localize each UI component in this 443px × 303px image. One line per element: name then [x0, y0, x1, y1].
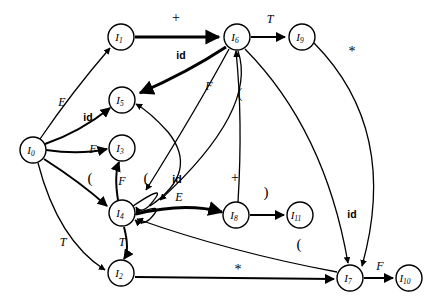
node-I2[interactable]: I2 — [108, 260, 134, 286]
edge-I0-I4 — [44, 159, 107, 206]
node-I8-sub: 8 — [234, 214, 238, 223]
edge-label-I4-I8: E — [174, 190, 183, 204]
node-I3-sub: 3 — [119, 147, 124, 156]
edge-label-I4-I3: F — [117, 174, 126, 188]
edge-label-I6-I4b: ( — [238, 85, 243, 102]
edge-I6-I7 — [245, 49, 348, 263]
edge-I9-I7 — [314, 43, 374, 266]
node-I9[interactable]: I9 — [289, 24, 315, 50]
edge-I4-self-paren — [133, 193, 158, 210]
node-I5-sub: 5 — [120, 99, 124, 108]
edge-I0-I1 — [40, 48, 110, 139]
node-I2-sub: 2 — [119, 272, 123, 281]
edge-label-I7-I10: F — [375, 259, 384, 273]
edge-I0-I3 — [46, 149, 107, 152]
edge-label-I6-I5: id — [176, 49, 185, 61]
edges-layer — [38, 37, 393, 279]
edge-label-I4-I4: ( — [144, 170, 149, 187]
node-I11[interactable]: I11 — [287, 202, 313, 228]
edge-label-I8-I6: + — [231, 170, 239, 185]
edge-label-I6-I7: id — [347, 208, 356, 220]
edge-label-I0-I3: F — [88, 142, 97, 156]
node-I4-sub: 4 — [120, 212, 124, 221]
edge-label-I4-I5: id — [172, 173, 181, 185]
node-I0-sub: 0 — [31, 149, 35, 158]
node-I4[interactable]: I4 — [109, 200, 135, 226]
edge-I2-I7 — [135, 277, 334, 279]
node-I10[interactable]: I10 — [396, 265, 422, 291]
edge-label-I0-I2: T — [60, 235, 68, 249]
edge-label-I0-I5: id — [83, 111, 92, 123]
diagram-canvas: + T id F ( E id F ( T F ( id E T + ) * i… — [0, 0, 443, 303]
node-I11-sub: 11 — [294, 214, 301, 223]
edge-label-I6-I9: T — [267, 12, 275, 26]
edge-label-I8-I11: ) — [264, 184, 269, 201]
node-I6-sub: 6 — [235, 36, 239, 45]
node-I9-sub: 9 — [300, 36, 304, 45]
state-transition-graph: + T id F ( E id F ( T F ( id E T + ) * i… — [0, 0, 443, 303]
node-I10-sub: 10 — [403, 277, 411, 286]
edge-label-I1-I6: + — [172, 10, 180, 25]
edge-I0-I2 — [38, 163, 105, 270]
edge-I0-I5 — [45, 108, 110, 144]
node-I6[interactable]: I6 — [224, 24, 250, 50]
node-I0[interactable]: I0 — [20, 137, 46, 163]
node-I7-sub: 7 — [348, 277, 352, 286]
node-I8[interactable]: I8 — [223, 202, 249, 228]
edge-label-I0-I1: E — [57, 95, 66, 109]
edge-label-I7-I4: ( — [297, 236, 302, 253]
edge-label-I2-I7: * — [235, 262, 242, 277]
node-I1-sub: 1 — [119, 36, 123, 45]
node-I5[interactable]: I5 — [109, 87, 135, 113]
edge-I4-I5 — [136, 104, 180, 206]
edge-label-I9-I7: * — [349, 44, 356, 59]
node-I7[interactable]: I7 — [337, 265, 363, 291]
edge-I4-I8 — [136, 207, 222, 214]
edge-label-I6-I4a: F — [204, 79, 213, 93]
edge-label-I0-I4: ( — [88, 170, 93, 187]
node-I3[interactable]: I3 — [109, 135, 135, 161]
node-I1[interactable]: I1 — [108, 24, 134, 50]
